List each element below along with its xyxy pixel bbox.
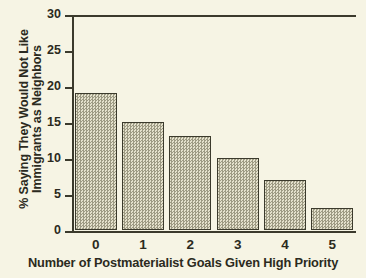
y-axis-tick-label: 0	[54, 223, 61, 237]
bar	[311, 208, 353, 230]
x-axis-tick-label: 0	[92, 237, 100, 252]
x-axis-tick-label: 2	[187, 237, 195, 252]
x-axis-tick-label: 1	[139, 237, 147, 252]
bar-chart: % Saying They Would Not Like Immigrants …	[0, 0, 366, 278]
y-axis-tick: 10	[65, 159, 72, 161]
y-axis-tick-label: 15	[47, 115, 61, 129]
x-axis-tick-label: 3	[234, 237, 242, 252]
y-axis-tick: 20	[65, 87, 72, 89]
plot-area: 051015202530 012345	[72, 15, 356, 232]
plot-top-border	[72, 15, 356, 17]
bar	[122, 122, 164, 230]
y-axis-tick-label: 30	[47, 7, 61, 21]
y-axis-tick: 5	[65, 195, 72, 197]
y-axis-tick-label: 5	[54, 187, 61, 201]
y-axis-tick: 25	[65, 51, 72, 53]
bar	[75, 93, 117, 230]
x-axis-tick-label: 4	[281, 237, 289, 252]
y-axis-title-line-2: Immigrants as Neighbors	[31, 45, 44, 193]
x-axis-tick-label: 5	[329, 237, 337, 252]
bar	[264, 180, 306, 230]
y-axis-title: % Saying They Would Not Like Immigrants …	[11, 9, 51, 229]
bar	[169, 136, 211, 230]
x-axis-title: Number of Postmaterialist Goals Given Hi…	[0, 255, 366, 270]
y-axis-tick-label: 25	[47, 43, 61, 57]
y-axis-tick: 15	[65, 123, 72, 125]
y-axis-tick-label: 10	[47, 151, 61, 165]
x-axis-line	[72, 231, 356, 233]
y-axis-tick-label: 20	[47, 79, 61, 93]
y-axis-tick: 0	[65, 231, 72, 233]
y-axis-tick: 30	[65, 15, 72, 17]
bar	[217, 158, 259, 230]
